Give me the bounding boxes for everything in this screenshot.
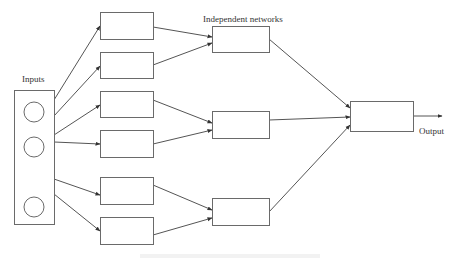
arrow-edge-5: [54, 179, 100, 195]
arrow-edge-12: [153, 218, 212, 235]
output-label: Output: [419, 126, 445, 136]
inputs-label: Inputs: [22, 74, 45, 84]
independent-network-box-1: [213, 27, 270, 53]
input-node-circle-1: [24, 102, 44, 122]
first-layer-box-2: [101, 53, 154, 79]
arrow-edge-8: [153, 43, 212, 65]
first-layer-box-4: [101, 131, 154, 158]
independent-network-box-3: [213, 199, 270, 226]
arrow-edge-10: [153, 130, 212, 144]
independent-network-boxes: [213, 27, 270, 226]
arrow-edge-2: [54, 66, 100, 116]
first-layer-box-1: [101, 13, 154, 40]
output-box: [351, 102, 414, 132]
ensemble-network-diagram: Inputs Independent networks Output: [0, 0, 459, 259]
first-layer-boxes: [101, 13, 154, 245]
first-layer-box-6: [101, 218, 154, 245]
independent-network-box-2: [213, 112, 270, 139]
first-layer-box-3: [101, 92, 154, 118]
input-node-circle-3: [24, 197, 44, 217]
arrow-edge-7: [153, 27, 212, 37]
arrow-edge-4: [54, 142, 100, 144]
independent-networks-label: Independent networks: [203, 14, 283, 24]
arrow-edge-13: [269, 39, 350, 108]
arrow-edge-3: [54, 105, 100, 135]
arrow-edge-15: [269, 125, 350, 212]
arrow-edge-14: [269, 117, 350, 120]
input-node-circle-2: [24, 137, 44, 157]
caption-placeholder: [140, 254, 320, 258]
arrow-edge-9: [153, 100, 212, 123]
input-layer: [15, 91, 55, 225]
arrow-edge-6: [54, 194, 100, 231]
arrow-edge-11: [153, 185, 212, 210]
arrow-edge-1: [54, 26, 100, 100]
first-layer-box-5: [101, 178, 154, 205]
